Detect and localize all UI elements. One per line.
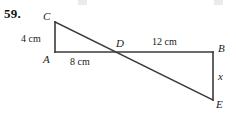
measure-label-AD: 8 cm [70,56,90,67]
vertex-label-D: D [116,37,124,49]
vertex-label-E: E [216,98,223,110]
figure-page: 59. C A D B E 4 cm 8 cm 12 cm x [0,0,236,116]
vertex-label-C: C [43,10,50,22]
measure-label-BE-unknown: x [218,70,223,82]
measure-label-CA: 4 cm [21,33,41,44]
vertex-label-A: A [43,53,50,65]
geometry-diagram [0,0,236,116]
measure-label-DB: 12 cm [152,36,177,47]
vertex-label-B: B [218,42,225,54]
